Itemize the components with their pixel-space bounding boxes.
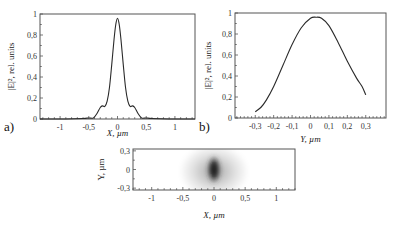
y-tick-label: 1 (33, 10, 37, 19)
y-tick-label: 0 (126, 166, 130, 175)
y-tick-label: 0,6 (222, 51, 232, 60)
y-tick-label: 0,2 (222, 93, 232, 102)
y-axis-label: Y, µm (96, 158, 106, 180)
figure: -1-0,500,5100,20,40,60,81X, µm|E|², rel.… (0, 0, 393, 226)
plot-frame (235, 13, 386, 118)
x-tick-label: 0,3 (361, 122, 371, 131)
plot-frame (40, 14, 195, 119)
panel-label: b) (199, 119, 210, 134)
x-tick-label: -0,1 (286, 122, 299, 131)
y-axis-label: |E|², rel. units (203, 41, 213, 89)
heatmap-spot (179, 144, 249, 199)
y-tick-label: 0,4 (27, 73, 37, 82)
y-tick-label: 0 (228, 114, 232, 123)
x-axis-label: Y, µm (300, 134, 321, 144)
y-tick-label: 0,4 (222, 72, 232, 81)
chart-panel-a: -1-0,500,5100,20,40,60,81X, µm|E|², rel.… (4, 10, 195, 138)
x-tick-label: 0,2 (342, 122, 352, 131)
y-tick-label: 0,2 (27, 94, 37, 103)
data-line (40, 18, 195, 119)
x-tick-label: 0,1 (324, 122, 334, 131)
y-tick-label: 0,8 (27, 31, 37, 40)
x-axis-label: X, µm (106, 128, 129, 138)
x-tick-label: -1 (57, 123, 64, 132)
y-tick-label: 0,3 (120, 147, 130, 156)
y-tick-label: -0,3 (117, 184, 130, 193)
y-axis-label: |E|², rel. units (6, 42, 16, 90)
x-tick-label: -0,5 (177, 194, 190, 203)
y-tick-label: 0,8 (222, 30, 232, 39)
x-tick-label: 0,5 (240, 194, 250, 203)
chart-panel-b: -0,3-0,2-0,100,10,20,300,20,40,60,81Y, µ… (199, 9, 386, 144)
x-tick-label: 0 (309, 122, 313, 131)
x-tick-label: -1 (148, 194, 155, 203)
x-tick-label: 1 (274, 194, 278, 203)
panel-label: a) (4, 119, 14, 134)
x-axis-label: X, µm (202, 210, 225, 220)
y-tick-label: 1 (228, 9, 232, 18)
x-tick-label: 0 (212, 194, 216, 203)
data-line (255, 17, 365, 112)
x-tick-label: -0,3 (249, 122, 262, 131)
x-tick-label: -0,5 (82, 123, 95, 132)
y-tick-label: 0,6 (27, 52, 37, 61)
x-tick-label: -0,2 (267, 122, 280, 131)
x-tick-label: 0,5 (141, 123, 151, 132)
chart-panel-c-heatmap: -1-0,500,51-0,300,3X, µmY, µm (96, 144, 295, 220)
y-tick-label: 0 (33, 115, 37, 124)
x-tick-label: 1 (173, 123, 177, 132)
